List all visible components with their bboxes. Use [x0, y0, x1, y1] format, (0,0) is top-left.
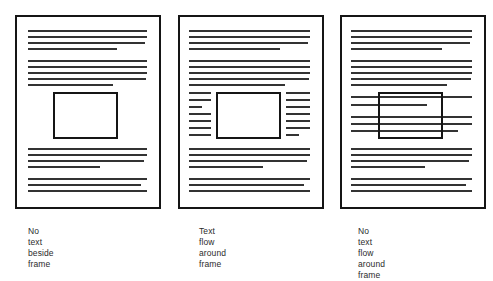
text-line [189, 84, 285, 86]
text-line [189, 42, 308, 44]
text-line [189, 106, 202, 108]
text-line [28, 60, 147, 62]
text-line [189, 134, 211, 136]
text-line [189, 78, 309, 80]
text-line [189, 48, 280, 50]
text-line [351, 148, 472, 150]
text-line [351, 72, 472, 74]
text-line [189, 113, 211, 115]
text-line [189, 30, 310, 32]
text-line [351, 184, 466, 186]
text-line [189, 178, 310, 180]
text-line [351, 42, 470, 44]
text-line [28, 190, 147, 192]
text-line [28, 154, 147, 156]
anchored-frame [53, 92, 118, 139]
text-line [28, 178, 147, 180]
text-line [189, 72, 310, 74]
text-line [28, 36, 147, 38]
panel-caption: Text flow around frame [199, 226, 226, 270]
text-line [189, 66, 310, 68]
text-line [28, 184, 141, 186]
panel-caption: No text flow around frame [358, 226, 385, 281]
text-line [286, 127, 310, 129]
text-line [286, 99, 310, 101]
text-line [286, 134, 299, 136]
text-line [351, 36, 472, 38]
text-line [351, 178, 472, 180]
text-line [28, 30, 147, 32]
text-line [351, 30, 472, 32]
text-line [28, 84, 113, 86]
anchored-frame [216, 92, 281, 139]
text-line [28, 48, 117, 50]
text-line [286, 120, 310, 122]
text-line [351, 78, 471, 80]
text-line [189, 127, 211, 129]
text-line [286, 113, 310, 115]
text-line [189, 148, 310, 150]
text-line [189, 36, 310, 38]
text-line [351, 48, 442, 50]
text-line [28, 66, 147, 68]
text-line [351, 166, 425, 168]
text-line [189, 99, 211, 101]
text-line [28, 166, 100, 168]
text-line [189, 190, 310, 192]
text-line [351, 160, 469, 162]
panel-caption: No text beside frame [28, 226, 54, 270]
text-line [189, 120, 211, 122]
text-line [189, 166, 263, 168]
anchored-frame [378, 92, 443, 139]
text-line [189, 160, 307, 162]
text-line [189, 92, 211, 94]
text-line [286, 106, 310, 108]
text-line [351, 60, 472, 62]
text-line [351, 66, 472, 68]
text-line [28, 72, 147, 74]
text-line [28, 160, 144, 162]
text-line [351, 190, 472, 192]
text-line [28, 42, 145, 44]
text-line [351, 154, 472, 156]
text-line [28, 78, 146, 80]
text-line [286, 92, 310, 94]
text-line [189, 184, 304, 186]
text-line [189, 154, 310, 156]
text-line [189, 60, 310, 62]
text-line [28, 148, 147, 150]
text-line [351, 84, 447, 86]
